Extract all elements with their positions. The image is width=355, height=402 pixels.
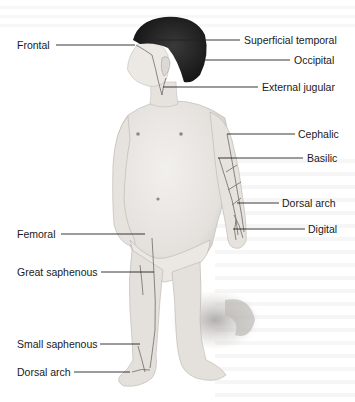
label-basilic: Basilic — [307, 152, 337, 164]
ear — [161, 57, 170, 76]
vein-diagram: Frontal Femoral Great saphenous Small sa… — [0, 0, 355, 402]
label-cephalic: Cephalic — [298, 128, 339, 140]
label-digital: Digital — [308, 223, 337, 235]
label-occipital: Occipital — [294, 54, 334, 66]
label-dorsal-arch-hand: Dorsal arch — [282, 197, 336, 209]
label-superficial-temporal: Superficial temporal — [244, 34, 337, 46]
label-small-saphenous: Small saphenous — [17, 338, 98, 350]
label-frontal: Frontal — [17, 39, 50, 51]
label-great-saphenous: Great saphenous — [17, 266, 98, 278]
label-external-jugular: External jugular — [262, 81, 335, 93]
label-femoral: Femoral — [17, 228, 56, 240]
label-dorsal-arch-foot: Dorsal arch — [17, 366, 71, 378]
